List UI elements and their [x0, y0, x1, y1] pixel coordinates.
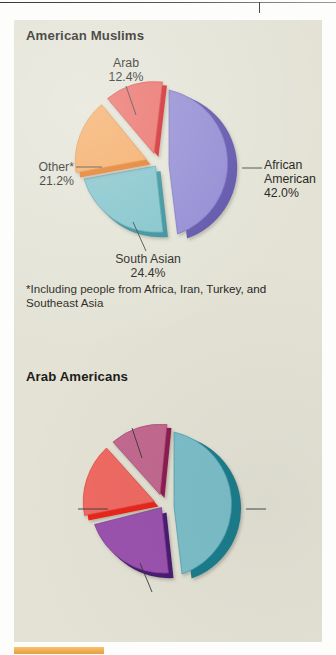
pie-label-african-american: African [264, 158, 302, 172]
pie-slice-south-asian[interactable] [84, 166, 168, 237]
pie-label-other: Other* [14, 160, 74, 174]
pie-label-african-american-value: 42.0% [264, 186, 299, 200]
chart-footnote-american-muslims: *Including people from Africa, Iran, Tur… [26, 282, 306, 310]
pie-label-arab: Arab [89, 56, 163, 70]
bottom-accent-bar [14, 647, 104, 654]
top-tick-mark [259, 2, 260, 13]
pie-label-african-american-line2: American [264, 172, 316, 186]
pie-label-south-asian: South Asian [110, 252, 186, 266]
pie-label-other-value: 21.2% [14, 174, 74, 188]
figure-page: American Muslims [0, 0, 336, 655]
pie-label-arab-value: 12.4% [89, 70, 163, 84]
pie-slice-catholic[interactable] [174, 432, 241, 579]
top-rule [0, 2, 336, 3]
figure-panel: American Muslims [14, 20, 322, 642]
pie-chart-arab-americans [14, 365, 322, 640]
pie-slice-muslim[interactable] [95, 508, 174, 579]
pie-slice-african-american[interactable] [169, 90, 237, 239]
pie-label-south-asian-value: 24.4% [110, 266, 186, 280]
